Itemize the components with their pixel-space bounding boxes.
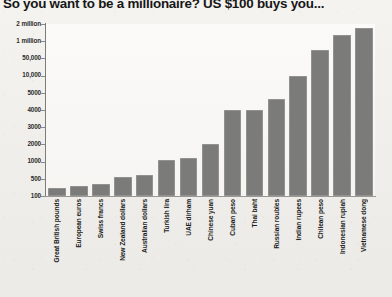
x-axis-tick-label: Chinese yuan [207, 199, 214, 241]
x-axis-tick-label: New Zealand dollars [119, 199, 126, 261]
bar[interactable] [224, 110, 242, 196]
y-axis-tick-label: 4000 [0, 107, 41, 113]
x-axis-line [45, 196, 376, 197]
y-axis-tick-label: 50,000 [0, 55, 41, 61]
bar[interactable] [311, 50, 329, 196]
x-axis-tick-label: Vietnamese dong [360, 199, 367, 252]
bar[interactable] [114, 177, 132, 196]
x-axis-tick-label: Thai baht [251, 199, 258, 227]
bar-series [46, 24, 375, 196]
x-axis-tick-label: Russian roubles [273, 199, 280, 249]
y-axis-tick-label: 2000 [0, 141, 41, 147]
x-axis-tick-label: Great British pounds [53, 199, 60, 263]
y-axis-tick-label: 2 million [0, 21, 41, 27]
bar[interactable] [333, 35, 351, 196]
x-axis-tick-label: Swiss francs [97, 199, 104, 238]
bar[interactable] [202, 144, 220, 196]
y-axis-tick-label: 10,000 [0, 72, 41, 78]
bar[interactable] [136, 175, 154, 196]
bar[interactable] [246, 110, 264, 196]
y-axis-tick-label: 5000 [0, 90, 41, 96]
chart-title: So you want to be a millionaire? US $100… [3, 0, 391, 11]
x-axis-tick-label: Chilean peso [317, 199, 324, 239]
bar[interactable] [180, 158, 198, 196]
bar[interactable] [70, 186, 88, 196]
y-axis-tick-label: 500 [0, 176, 41, 182]
y-axis-tick-label: 100 [0, 193, 41, 199]
y-axis-label-group: 1005001000200030004000500010,00050,0001 … [0, 0, 41, 297]
x-axis-tick-label: Cuban peso [229, 199, 236, 236]
x-axis-tick-label: Australian dollars [141, 199, 148, 253]
bar[interactable] [48, 188, 66, 196]
x-axis-tick-label: Indian rupees [295, 199, 302, 241]
x-axis-tick-label: Turkish lira [163, 199, 170, 233]
bar[interactable] [355, 28, 373, 196]
bar[interactable] [92, 184, 110, 196]
x-axis-tick-label: UAE dirham [185, 199, 192, 236]
y-axis-tick-label: 1 million [0, 38, 41, 44]
x-axis-label-group: Great British poundsEuropean eurosSwiss … [46, 199, 375, 297]
y-axis-tick-label: 1000 [0, 158, 41, 164]
bar[interactable] [289, 76, 307, 196]
x-axis-tick-label: European euros [75, 199, 82, 248]
bar[interactable] [268, 99, 286, 196]
y-axis-tick-label: 3000 [0, 124, 41, 130]
bar[interactable] [158, 160, 176, 196]
x-axis-tick-label: Indonesian rupiah [339, 199, 346, 254]
